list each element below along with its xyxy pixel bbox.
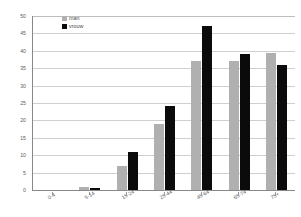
x-axis-tick-label: 0-4 [47,192,56,200]
bar-man-65-74 [229,61,239,190]
x-axis-tick-label: 25-44 [159,189,173,200]
y-axis-tick-label: 25 [4,101,26,106]
bar-vrouw-15-24 [128,152,138,190]
bar-group [146,16,183,190]
y-axis-tick-label: 20 [4,118,26,123]
plot-area [32,16,295,191]
bar-group [220,16,257,190]
x-axis-tick-label: 75+ [270,192,280,201]
bar-man-75plus [266,53,276,190]
bar-man-45-64 [191,61,201,190]
x-axis-tick-label: 5-14 [84,191,96,201]
y-axis-tick-label: 40 [4,49,26,54]
chart-legend: man vrouw [62,15,83,30]
y-axis-tick-label: 10 [4,153,26,158]
bar-group [109,16,146,190]
y-axis-tick-label: 50 [4,14,26,19]
legend-label-vrouw: vrouw [69,24,83,29]
legend-swatch-vrouw-icon [62,24,67,29]
legend-item-vrouw: vrouw [62,23,83,30]
y-axis-tick-label: 0 [4,188,26,193]
x-axis-tick-label: 45-64 [196,189,210,200]
bar-man-25-44 [154,124,164,190]
bar-vrouw-45-64 [202,26,212,190]
y-axis-tick-label: 5 [4,171,26,176]
x-axis-labels: 0-45-1415-2425-4445-6465-7475+ [33,192,294,217]
bar-group [258,16,295,190]
y-axis-tick-label: 35 [4,66,26,71]
y-axis-tick-label: 45 [4,31,26,36]
y-axis-tick-label: 30 [4,84,26,89]
legend-label-man: man [69,16,80,21]
bar-man-5-14 [79,187,89,190]
bars-layer [34,16,295,190]
legend-item-man: man [62,15,83,22]
bar-vrouw-25-44 [165,106,175,190]
legend-swatch-man-icon [62,16,67,21]
bar-vrouw-75plus [277,65,287,190]
bar-group [34,16,71,190]
bar-chart: 50454035302520151050 0-45-1415-2425-4445… [0,0,301,217]
x-axis-tick-label: 65-74 [233,189,247,200]
bar-vrouw-65-74 [240,54,250,190]
y-axis-tick-label: 15 [4,136,26,141]
bar-group [183,16,220,190]
bar-group [71,16,108,190]
x-axis-tick-label: 15-24 [121,189,135,200]
bar-man-15-24 [117,166,127,190]
